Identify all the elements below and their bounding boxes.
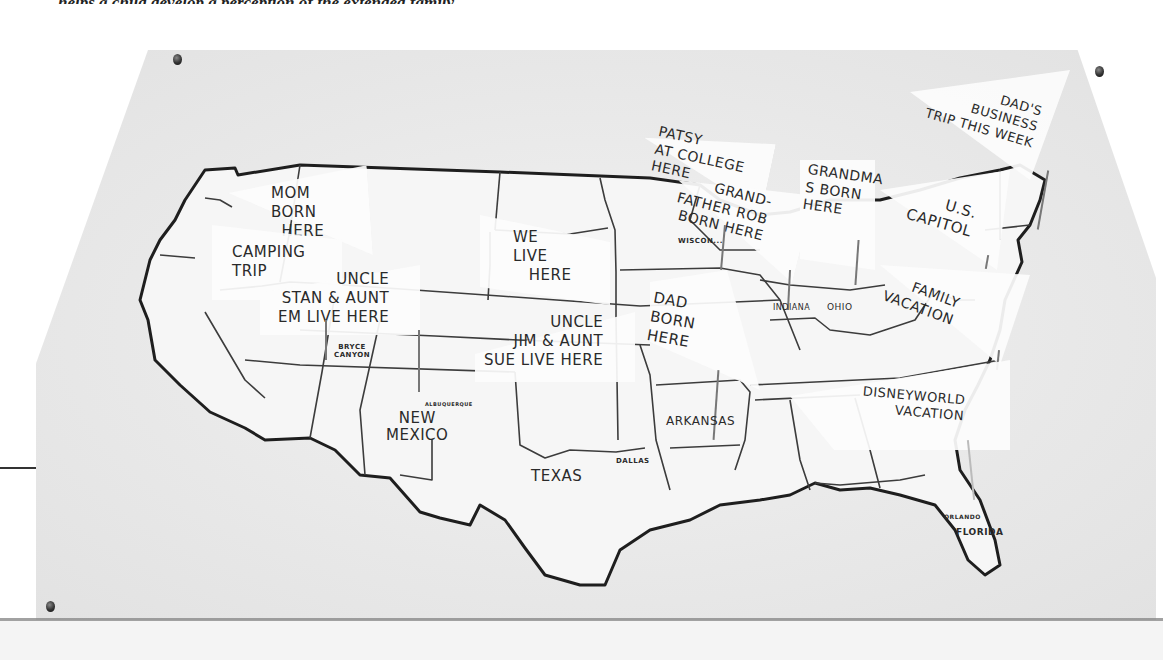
- state-label-indiana: INDIANA: [773, 303, 810, 312]
- flag-text-mom-born: MOM BORN HERE: [271, 184, 324, 240]
- state-label-florida: FLORIDA: [956, 527, 1003, 537]
- flag-text-dad-born: DAD BORN HERE: [645, 288, 700, 351]
- flag-pole: [325, 320, 327, 360]
- place-label-albuquerque: ALBUQUERQUE: [425, 401, 473, 407]
- flag-text-uncle-jim: UNCLE JIM & AUNT SUE LIVE HERE: [484, 313, 603, 369]
- place-label-dallas: DALLAS: [616, 457, 650, 465]
- state-label-texas: TEXAS: [531, 467, 582, 485]
- place-label-bryce-canyon: BRYCE CANYON: [334, 344, 370, 359]
- flag-text-uncle-stan: UNCLE STAN & AUNT EM LIVE HERE: [278, 270, 389, 326]
- state-label-ohio: OHIO: [827, 302, 853, 312]
- flag-pole: [418, 330, 420, 392]
- flag-text-grandma-born: GRANDMA S BORN HERE: [802, 161, 885, 224]
- state-label-wisconsin: WISCON...: [678, 237, 723, 245]
- state-label-arkansas: ARKANSAS: [666, 414, 735, 428]
- place-label-orlando: ORLANDO: [944, 513, 981, 520]
- flag-text-we-live: WE LIVE HERE: [513, 228, 571, 284]
- state-label-new-mexico: NEW MEXICO: [386, 410, 448, 443]
